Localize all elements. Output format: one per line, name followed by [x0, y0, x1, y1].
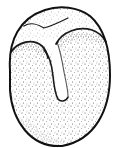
seed-illustration — [0, 0, 120, 148]
seed-drawing — [0, 0, 120, 148]
